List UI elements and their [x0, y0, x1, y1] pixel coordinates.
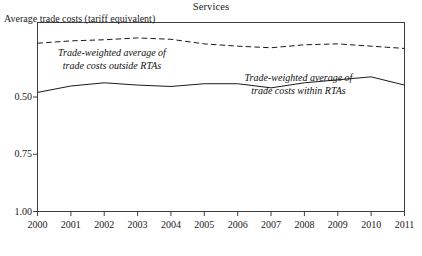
x-tick-label: 2010	[354, 219, 388, 230]
y-tick-label: 1.00	[2, 206, 32, 217]
tick-marks	[33, 97, 405, 216]
annotation-within-line-2: trade costs within RTAs	[226, 85, 371, 98]
x-tick-label: 2000	[21, 219, 55, 230]
x-tick-label: 2001	[54, 219, 88, 230]
x-tick-label: 2009	[321, 219, 355, 230]
annotation-within-line-1: Trade-weighted average of	[226, 72, 371, 85]
x-tick-label: 2008	[287, 219, 321, 230]
x-tick-label: 2007	[254, 219, 288, 230]
x-tick-label: 2011	[388, 219, 422, 230]
x-tick-label: 2004	[154, 219, 188, 230]
x-tick-label: 2006	[221, 219, 255, 230]
annotation-outside-rtas: Trade-weighted average of trade costs ou…	[42, 47, 182, 72]
services-trade-costs-chart: Services Average trade costs (tariff equ…	[0, 0, 422, 256]
annotation-outside-line-2: trade costs outside RTAs	[42, 60, 182, 73]
annotation-within-rtas: Trade-weighted average of trade costs wi…	[226, 72, 371, 97]
annotation-outside-line-1: Trade-weighted average of	[42, 47, 182, 60]
x-tick-label: 2002	[87, 219, 121, 230]
y-tick-label: 0.75	[2, 148, 32, 159]
x-tick-label: 2005	[187, 219, 221, 230]
x-tick-label: 2003	[121, 219, 155, 230]
y-tick-label: 0.50	[2, 91, 32, 102]
